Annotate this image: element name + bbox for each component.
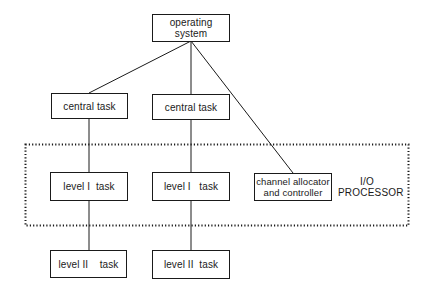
node-label: central task (63, 101, 115, 112)
node-label: level I task (63, 181, 114, 192)
node-central-task-1: central task (51, 93, 128, 119)
node-level2-task-1: level II task (50, 250, 127, 278)
io-processor-label-line1: I/O (338, 176, 396, 187)
node-label-line2: and controller (264, 187, 323, 198)
node-level2-task-2: level II task (152, 250, 230, 279)
node-operating-system: operating system (152, 14, 230, 42)
node-label: level I task (164, 181, 218, 192)
node-label: operating system (153, 17, 229, 39)
node-label: central task (165, 102, 217, 113)
node-level1-task-2: level I task (152, 172, 230, 201)
node-label: level II task (164, 259, 218, 270)
node-central-task-2: central task (152, 94, 230, 120)
node-label-line1: channel allocator (256, 176, 330, 187)
io-processor-label: I/O PROCESSOR (338, 176, 396, 198)
node-label: level II task (59, 259, 119, 270)
node-level1-task-1: level I task (50, 172, 128, 201)
io-processor-label-line2: PROCESSOR (338, 187, 396, 198)
node-channel-allocator: channel allocator and controller (254, 173, 332, 201)
edge-os-central-task-1 (89, 41, 191, 93)
